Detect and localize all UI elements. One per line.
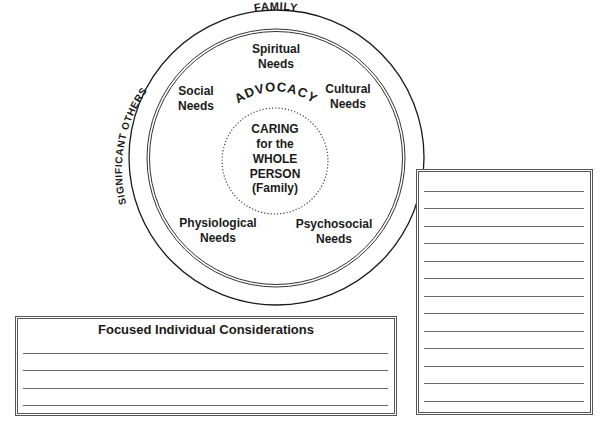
writing-line <box>23 388 388 389</box>
notes-box[interactable] <box>416 169 593 415</box>
considerations-title: Focused Individual Considerations <box>18 322 394 337</box>
writing-line <box>424 313 584 314</box>
svg-text:Cultural: Cultural <box>325 82 370 96</box>
writing-line <box>424 278 584 279</box>
writing-line <box>424 296 584 297</box>
considerations-box[interactable]: Focused Individual Considerations <box>15 316 397 416</box>
svg-text:Physiological: Physiological <box>179 216 256 230</box>
writing-line <box>424 261 584 262</box>
svg-text:for the: for the <box>256 137 294 151</box>
cultural-needs-label: Cultural Needs <box>325 82 370 111</box>
svg-text:Spiritual: Spiritual <box>252 42 300 56</box>
writing-line <box>424 331 584 332</box>
svg-text:PERSON: PERSON <box>250 167 301 181</box>
writing-line <box>424 226 584 227</box>
writing-line <box>424 348 584 349</box>
writing-line <box>23 353 388 354</box>
svg-text:WHOLE: WHOLE <box>253 152 298 166</box>
writing-line <box>424 208 584 209</box>
svg-text:Needs: Needs <box>178 99 214 113</box>
significant-others-label: SIGNIFICANT OTHERS <box>113 85 149 206</box>
writing-line <box>424 243 584 244</box>
svg-text:(Family): (Family) <box>252 181 298 195</box>
svg-text:Needs: Needs <box>316 232 352 246</box>
psychosocial-needs-label: Psychosocial Needs <box>296 217 373 246</box>
svg-text:Psychosocial: Psychosocial <box>296 217 373 231</box>
writing-line <box>424 401 584 402</box>
family-label: FAMILY <box>253 0 299 13</box>
advocacy-label: ADVOCACY <box>232 79 321 106</box>
svg-text:Needs: Needs <box>258 57 294 71</box>
writing-line <box>424 366 584 367</box>
center-label: CARING for the WHOLE PERSON (Family) <box>250 122 301 195</box>
svg-text:Needs: Needs <box>200 231 236 245</box>
writing-line <box>23 370 388 371</box>
svg-text:Social: Social <box>178 84 213 98</box>
social-needs-label: Social Needs <box>178 84 214 113</box>
spiritual-needs-label: Spiritual Needs <box>252 42 300 71</box>
svg-text:Needs: Needs <box>330 97 366 111</box>
physiological-needs-label: Physiological Needs <box>179 216 256 245</box>
svg-text:CARING: CARING <box>251 122 298 136</box>
writing-line <box>424 383 584 384</box>
writing-line <box>23 405 388 406</box>
writing-line <box>424 191 584 192</box>
